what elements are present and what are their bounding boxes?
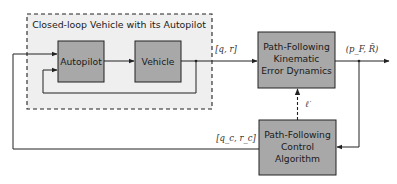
- signal-commands: [q_c, r_c]: [216, 133, 256, 144]
- autopilot-label: Autopilot: [60, 56, 102, 67]
- group-title: Closed-loop Vehicle with its Autopilot: [32, 19, 206, 30]
- control-line-3: Algorithm: [275, 153, 320, 164]
- control-line-2: Control: [281, 141, 314, 152]
- outer-feedback-to-control: [337, 61, 359, 147]
- kinematic-line-1: Path-Following: [263, 41, 330, 52]
- control-line-1: Path-Following: [264, 129, 331, 140]
- autopilot-block: Autopilot: [58, 41, 104, 82]
- vehicle-block: Vehicle: [135, 41, 181, 82]
- signal-error: ℓ̇: [305, 99, 312, 109]
- vehicle-label: Vehicle: [142, 56, 175, 67]
- kinematic-error-dynamics-block: Path-Following Kinematic Error Dynamics: [258, 32, 335, 88]
- signal-output: (p_F, R̃): [346, 43, 379, 55]
- kinematic-line-3: Error Dynamics: [261, 65, 332, 76]
- control-algorithm-block: Path-Following Control Algorithm: [259, 120, 336, 175]
- signal-vehicle-state: [q, r]: [215, 44, 237, 54]
- block-diagram: Closed-loop Vehicle with its Autopilot A…: [0, 0, 397, 184]
- kinematic-line-2: Kinematic: [274, 53, 320, 64]
